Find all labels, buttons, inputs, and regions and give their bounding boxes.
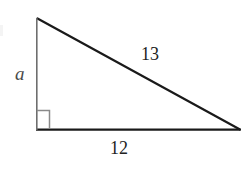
side-label-a: a [15,64,25,83]
right-angle-marker-icon [37,111,50,130]
hypotenuse-line [38,19,241,130]
right-triangle-figure: a 13 12 [0,0,250,181]
page-edge-artifact [0,25,3,36]
side-label-hypotenuse: 13 [141,45,159,63]
side-label-base: 12 [110,139,128,157]
